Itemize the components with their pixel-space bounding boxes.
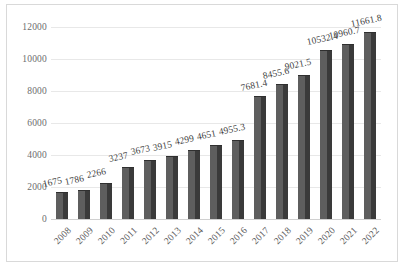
bar-slot[interactable] — [144, 27, 155, 219]
bar-face — [232, 140, 239, 219]
bar-shade — [85, 190, 89, 219]
bar[interactable] — [320, 50, 331, 219]
bar-slot[interactable] — [122, 27, 133, 219]
bar-shade — [239, 140, 243, 219]
bar[interactable] — [144, 160, 155, 219]
bar-cap — [100, 183, 111, 184]
bar-face — [56, 192, 63, 219]
x-axis-tick-label: 2008 — [49, 225, 73, 249]
gridline — [51, 219, 381, 220]
x-axis-tick-label: 2011 — [115, 225, 139, 249]
chart-frame: 020004000600080001000012000 167517862266… — [6, 4, 398, 262]
caption-sliver — [120, 270, 390, 276]
bar-face — [100, 183, 107, 219]
x-axis-tick-label: 2022 — [357, 225, 381, 249]
bar[interactable] — [166, 156, 177, 219]
bar-cap — [364, 32, 375, 33]
bar-shade — [173, 156, 177, 219]
bar-shade — [129, 167, 133, 219]
bar-slot[interactable] — [276, 27, 287, 219]
y-axis: 020004000600080001000012000 — [7, 27, 47, 219]
y-axis-tick-label: 4000 — [9, 150, 47, 160]
y-axis-tick-label: 12000 — [9, 22, 47, 32]
bar-cap — [144, 160, 155, 161]
bar-slot[interactable] — [298, 27, 309, 219]
bar-slot[interactable] — [100, 27, 111, 219]
bar-shade — [349, 44, 353, 219]
bar-slot[interactable] — [254, 27, 265, 219]
bar-face — [78, 190, 85, 219]
x-axis-tick-label: 2012 — [137, 225, 161, 249]
bar-face — [210, 145, 217, 219]
bar-face — [122, 167, 129, 219]
bar-shade — [195, 150, 199, 219]
bar-shade — [63, 192, 67, 219]
bar-cap — [188, 150, 199, 151]
bar-cap — [78, 190, 89, 191]
bar[interactable] — [100, 183, 111, 219]
x-axis: 2008200920102011201220132014201520162017… — [51, 221, 381, 263]
bar-shade — [217, 145, 221, 219]
bar-shade — [327, 50, 331, 219]
bar[interactable] — [56, 192, 67, 219]
y-axis-tick-label: 6000 — [9, 118, 47, 128]
bar-cap — [342, 44, 353, 45]
x-axis-tick-label: 2019 — [291, 225, 315, 249]
bar-slot[interactable] — [320, 27, 331, 219]
bar-cap — [276, 84, 287, 85]
x-axis-tick-label: 2009 — [71, 225, 95, 249]
x-axis-tick-label: 2010 — [93, 225, 117, 249]
bar[interactable] — [276, 84, 287, 219]
bar-slot[interactable] — [342, 27, 353, 219]
bar-slot[interactable] — [78, 27, 89, 219]
x-axis-tick-label: 2015 — [203, 225, 227, 249]
bar-cap — [122, 167, 133, 168]
bar-slot[interactable] — [364, 27, 375, 219]
bar-face — [298, 75, 305, 219]
bar-shade — [283, 84, 287, 219]
bar-cap — [166, 156, 177, 157]
bar-slot[interactable] — [188, 27, 199, 219]
y-axis-tick-label: 0 — [9, 214, 47, 224]
bar[interactable] — [342, 44, 353, 219]
bar[interactable] — [78, 190, 89, 219]
bar[interactable] — [232, 140, 243, 219]
bar[interactable] — [254, 96, 265, 219]
x-axis-tick-label: 2017 — [247, 225, 271, 249]
bar-cap — [254, 96, 265, 97]
bar-shade — [107, 183, 111, 219]
bar-cap — [56, 192, 67, 193]
bar-cap — [298, 75, 309, 76]
bar-face — [364, 32, 371, 219]
bar-slot[interactable] — [210, 27, 221, 219]
x-axis-tick-label: 2020 — [313, 225, 337, 249]
bar-shade — [371, 32, 375, 219]
plot-area: 167517862266323736733915429946514955.376… — [51, 27, 381, 219]
bar-shade — [305, 75, 309, 219]
bar-face — [254, 96, 261, 219]
x-axis-tick-label: 2018 — [269, 225, 293, 249]
bar-face — [276, 84, 283, 219]
bar-slot[interactable] — [166, 27, 177, 219]
bar-face — [166, 156, 173, 219]
x-axis-tick-label: 2014 — [181, 225, 205, 249]
bar-cap — [210, 145, 221, 146]
x-axis-tick-label: 2021 — [335, 225, 359, 249]
bar[interactable] — [210, 145, 221, 219]
bar[interactable] — [122, 167, 133, 219]
y-axis-tick-label: 2000 — [9, 182, 47, 192]
x-axis-tick-label: 2016 — [225, 225, 249, 249]
bar-face — [342, 44, 349, 219]
bar[interactable] — [188, 150, 199, 219]
bar-shade — [261, 96, 265, 219]
bar[interactable] — [364, 32, 375, 219]
bar-face — [320, 50, 327, 219]
x-axis-tick-label: 2013 — [159, 225, 183, 249]
bar-shade — [151, 160, 155, 219]
bar-face — [188, 150, 195, 219]
bar-slot[interactable] — [56, 27, 67, 219]
bar-face — [144, 160, 151, 219]
bar[interactable] — [298, 75, 309, 219]
bar-cap — [232, 140, 243, 141]
y-axis-tick-label: 8000 — [9, 86, 47, 96]
